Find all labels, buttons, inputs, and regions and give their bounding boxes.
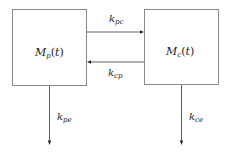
compartment-label-p-sub: p [46,52,50,60]
arrowhead-c-to-p [87,60,91,63]
rate-label-pe: kpe [57,112,72,122]
arrowhead-p-to-c [140,30,144,33]
compartment-label-c-main: M [166,45,177,58]
rate-label-ce: kce [189,112,203,122]
arrowhead-c-elimination [180,141,183,146]
arrowhead-p-elimination [48,141,51,146]
rate-label-pc-sub: pc [115,18,123,26]
paren-close: ) [190,45,194,58]
compartment-label-p-main: M [35,46,46,59]
paren-close: ) [59,46,63,59]
rate-label-pe-sub: pe [63,116,72,124]
rate-label-ce-sub: ce [195,116,203,124]
compartment-label-c-sub: c [177,51,181,59]
rate-label-cp-sub: cp [114,72,122,80]
rate-label-cp: kcp [108,68,122,78]
rate-label-pc: kpc [109,14,123,24]
compartment-label-c: Mc(t) [166,46,194,57]
compartment-label-p: Mp(t) [35,47,64,58]
